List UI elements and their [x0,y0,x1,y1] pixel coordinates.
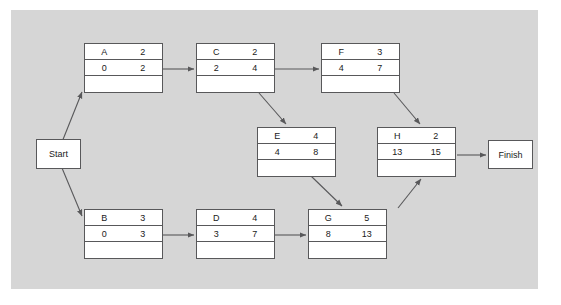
node-header-row: H 2 [378,128,455,144]
activity-early-start: 0 [85,226,124,242]
activity-slack [197,242,236,258]
activity-slack [322,76,361,92]
activity-duration: 3 [361,44,400,60]
activity-early-start: 4 [322,60,361,76]
activity-name: E [258,128,297,144]
activity-early-start: 0 [85,60,124,76]
node-header-row: B 3 [85,210,162,226]
activity-node-d[interactable]: D 4 3 7 [196,209,275,259]
activity-early-finish: 2 [124,60,163,76]
node-header-row: E 4 [258,128,335,144]
activity-slack [85,76,124,92]
node-times-row: 13 15 [378,144,455,160]
finish-node-label: Finish [498,150,522,160]
activity-node-b[interactable]: B 3 0 3 [84,209,163,259]
activity-early-finish: 13 [348,226,387,242]
activity-duration: 2 [236,44,275,60]
activity-duration: 4 [297,128,336,144]
start-node-label: Start [49,149,68,159]
activity-early-start: 2 [197,60,236,76]
activity-early-start: 3 [197,226,236,242]
activity-duration: 4 [236,210,275,226]
activity-node-h[interactable]: H 2 13 15 [377,127,456,177]
activity-slack [258,160,297,176]
node-slack-row [197,76,274,92]
node-slack-row [85,242,162,258]
activity-early-finish: 7 [236,226,275,242]
start-node[interactable]: Start [36,139,81,169]
node-times-row: 4 7 [322,60,399,76]
activity-name: A [85,44,124,60]
activity-early-finish: 15 [417,144,456,160]
node-times-row: 4 8 [258,144,335,160]
activity-duration: 2 [124,44,163,60]
activity-early-finish: 3 [124,226,163,242]
activity-name: H [378,128,417,144]
activity-node-e[interactable]: E 4 4 8 [257,127,336,177]
activity-name: B [85,210,124,226]
activity-name: F [322,44,361,60]
activity-slack [309,242,348,258]
node-header-row: C 2 [197,44,274,60]
node-header-row: D 4 [197,210,274,226]
diagram-root: Start Finish A 2 0 2 C 2 2 4 F [0,0,561,305]
node-slack-row [258,160,335,176]
activity-name: G [309,210,348,226]
node-times-row: 0 3 [85,226,162,242]
activity-node-g[interactable]: G 5 8 13 [308,209,387,259]
node-times-row: 3 7 [197,226,274,242]
node-slack-row [322,76,399,92]
activity-duration: 5 [348,210,387,226]
activity-node-f[interactable]: F 3 4 7 [321,43,400,93]
node-times-row: 2 4 [197,60,274,76]
activity-duration: 2 [417,128,456,144]
node-times-row: 0 2 [85,60,162,76]
node-times-row: 8 13 [309,226,386,242]
activity-name: D [197,210,236,226]
activity-duration: 3 [124,210,163,226]
node-header-row: A 2 [85,44,162,60]
activity-early-start: 4 [258,144,297,160]
activity-early-finish: 8 [297,144,336,160]
activity-name: C [197,44,236,60]
node-header-row: F 3 [322,44,399,60]
activity-node-a[interactable]: A 2 0 2 [84,43,163,93]
finish-node[interactable]: Finish [488,140,533,169]
activity-slack [378,160,417,176]
activity-early-start: 13 [378,144,417,160]
activity-early-finish: 4 [236,60,275,76]
activity-node-c[interactable]: C 2 2 4 [196,43,275,93]
node-slack-row [85,76,162,92]
activity-slack [85,242,124,258]
node-slack-row [309,242,386,258]
activity-early-finish: 7 [361,60,400,76]
activity-early-start: 8 [309,226,348,242]
activity-slack [197,76,236,92]
node-slack-row [197,242,274,258]
node-header-row: G 5 [309,210,386,226]
node-slack-row [378,160,455,176]
